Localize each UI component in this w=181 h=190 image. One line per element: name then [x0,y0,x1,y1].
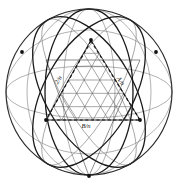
vertex-right [138,118,142,122]
label-bottom-chord: B/n [81,122,90,129]
vertex-upper-left [20,50,24,54]
vertex-bottom [87,174,91,178]
figure-root: 2/nA/nB/n [0,0,181,190]
vertex-left [44,118,48,122]
geometric-sphere-diagram: 2/nA/nB/n [0,0,181,190]
vertex-upper-right [154,50,158,54]
vertex-top [89,38,93,42]
